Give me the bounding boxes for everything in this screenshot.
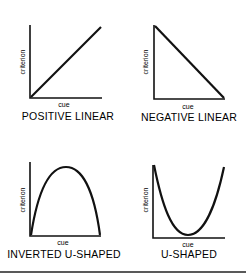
panel-u-shaped: criterion cue U-SHAPED xyxy=(142,165,225,260)
data-curve xyxy=(31,167,100,235)
y-axis-label: criterion xyxy=(142,187,149,212)
x-axis-label: cue xyxy=(182,103,193,110)
x-axis-label: cue xyxy=(58,101,69,108)
axes xyxy=(30,162,101,236)
panel-title: POSITIVE LINEAR xyxy=(22,110,114,122)
data-curve xyxy=(154,165,224,235)
panel-title: NEGATIVE LINEAR xyxy=(141,111,237,123)
panel-inverted-u-shaped: criterion cue INVERTED U-SHAPED xyxy=(7,162,121,260)
x-axis-label: cue xyxy=(57,239,68,246)
data-line xyxy=(31,27,101,97)
panel-title: INVERTED U-SHAPED xyxy=(7,248,121,260)
y-axis-label: criterion xyxy=(142,49,149,74)
y-axis-label: criterion xyxy=(19,187,26,212)
panel-negative-linear: criterion cue NEGATIVE LINEAR xyxy=(141,25,237,123)
y-axis-label: criterion xyxy=(19,49,26,74)
x-axis-label: cue xyxy=(182,241,193,248)
panel-title: U-SHAPED xyxy=(161,248,217,260)
data-line xyxy=(155,26,224,98)
panel-positive-linear: criterion cue POSITIVE LINEAR xyxy=(19,25,114,122)
figure-canvas: criterion cue POSITIVE LINEAR criterion … xyxy=(0,0,246,275)
